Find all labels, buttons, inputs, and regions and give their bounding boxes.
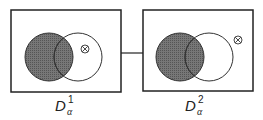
panel-2-superscript: 2 (198, 94, 204, 105)
panel-2-label: D (185, 98, 196, 113)
venn-diagram-pair (0, 0, 263, 120)
set-a-circle-2 (156, 33, 204, 81)
panel-1-superscript: 1 (68, 94, 74, 105)
panel-1-label: D (55, 98, 66, 113)
panel-1-subscript: α (67, 106, 72, 117)
panel-1 (11, 10, 121, 92)
set-a-circle-1 (25, 33, 73, 81)
panel-2 (143, 10, 253, 91)
panel-2-subscript: α (197, 106, 202, 117)
